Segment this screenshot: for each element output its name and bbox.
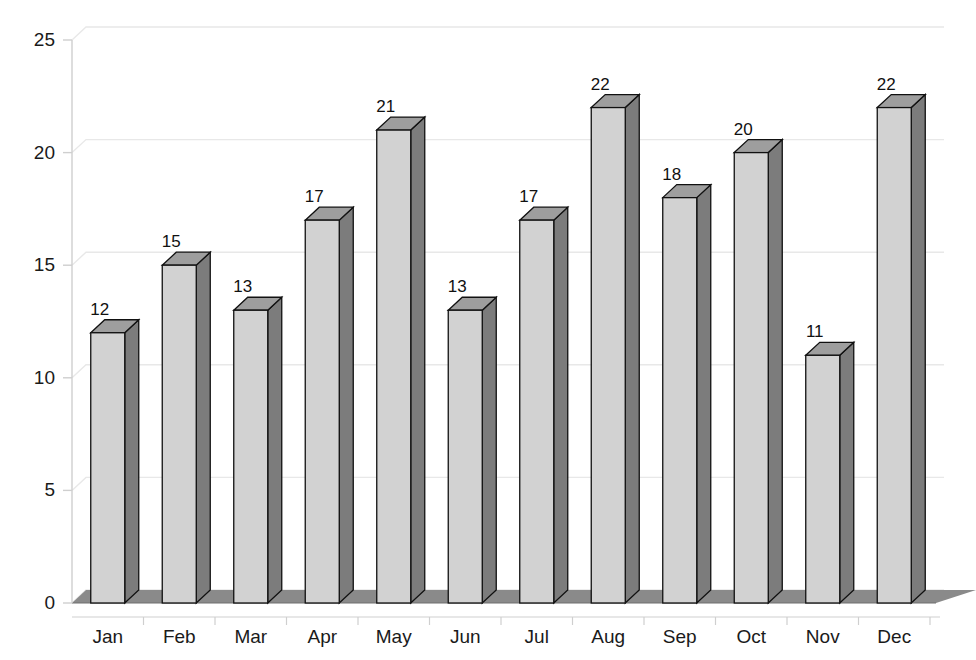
bar-Dec (877, 95, 925, 603)
bar-Sep (663, 185, 711, 603)
chart-canvas: 0510152025 JanFebMarAprMayJunJulAugSepOc… (0, 0, 976, 660)
data-label-Mar: 13 (233, 277, 252, 296)
bar-Nov (806, 342, 854, 603)
bar-side-face (411, 117, 425, 603)
x-tick-label-Oct: Oct (736, 626, 766, 647)
data-label-Aug: 22 (591, 75, 610, 94)
bar-Feb (162, 252, 210, 603)
bar-Mar (234, 297, 282, 603)
x-tick-label-Aug: Aug (591, 626, 625, 647)
data-label-Sep: 18 (662, 165, 681, 184)
bar-Jul (520, 207, 568, 603)
bar-front-face (377, 130, 411, 603)
y-tick-label: 15 (34, 254, 55, 275)
data-label-Jan: 12 (90, 300, 109, 319)
bar-front-face (234, 310, 268, 603)
bar-side-face (482, 297, 496, 603)
data-label-May: 21 (376, 97, 395, 116)
bar-Aug (591, 95, 639, 603)
data-label-Dec: 22 (877, 75, 896, 94)
x-tick-label-Mar: Mar (234, 626, 267, 647)
bar-side-face (697, 185, 711, 603)
bar-front-face (663, 198, 697, 603)
data-label-Feb: 15 (162, 232, 181, 251)
x-tick-label-Nov: Nov (806, 626, 840, 647)
bar-Jan (91, 320, 139, 603)
bar-side-face (911, 95, 925, 603)
y-tick-label: 25 (34, 29, 55, 50)
bar-front-face (448, 310, 482, 603)
bar-front-face (162, 265, 196, 603)
x-tick-label-Jan: Jan (92, 626, 123, 647)
x-tick-label-Apr: Apr (307, 626, 337, 647)
x-tick-label-Sep: Sep (663, 626, 697, 647)
bar-side-face (268, 297, 282, 603)
y-tick-label: 5 (44, 479, 55, 500)
bar-Oct (734, 140, 782, 603)
data-label-Jun: 13 (448, 277, 467, 296)
bar-front-face (520, 220, 554, 603)
bar-side-face (840, 342, 854, 603)
bar-front-face (91, 333, 125, 603)
x-tick-label-May: May (376, 626, 412, 647)
y-tick-label: 0 (44, 592, 55, 613)
bar-front-face (591, 108, 625, 603)
bar-side-face (554, 207, 568, 603)
x-tick-label-Jun: Jun (450, 626, 481, 647)
y-tick-label: 20 (34, 142, 55, 163)
bar-side-face (125, 320, 139, 603)
data-label-Oct: 20 (734, 120, 753, 139)
bar-Jun (448, 297, 496, 603)
data-label-Apr: 17 (305, 187, 324, 206)
data-label-Jul: 17 (519, 187, 538, 206)
bar-front-face (806, 355, 840, 603)
bar-side-face (768, 140, 782, 603)
x-tick-label-Jul: Jul (525, 626, 549, 647)
bar-chart-3d: 0510152025 JanFebMarAprMayJunJulAugSepOc… (0, 0, 976, 660)
bar-front-face (734, 153, 768, 603)
bar-side-face (196, 252, 210, 603)
y-tick-label: 10 (34, 367, 55, 388)
bar-front-face (305, 220, 339, 603)
bar-Apr (305, 207, 353, 603)
bar-side-face (625, 95, 639, 603)
bar-May (377, 117, 425, 603)
data-label-Nov: 11 (806, 322, 824, 341)
bar-side-face (339, 207, 353, 603)
x-tick-label-Dec: Dec (877, 626, 911, 647)
x-tick-label-Feb: Feb (163, 626, 196, 647)
bar-front-face (877, 108, 911, 603)
